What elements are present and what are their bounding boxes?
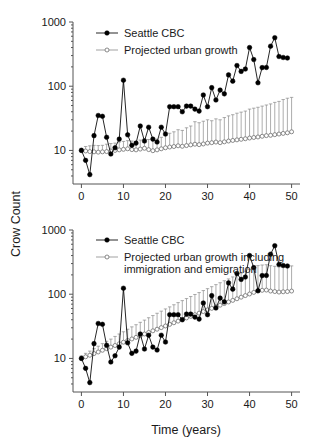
crow-count-figure: 10100100001020304050Seattle CBCProjected…: [0, 0, 322, 448]
y-axis-title: Crow Count: [9, 190, 23, 257]
x-axis-title: Time (years): [151, 423, 221, 437]
figure-axis-titles: Crow CountTime (years): [0, 0, 322, 448]
